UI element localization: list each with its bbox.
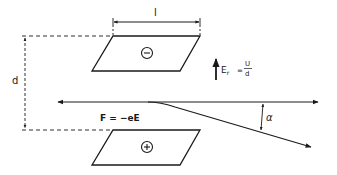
angle-arrow-icon bbox=[261, 104, 263, 130]
force-label: F = −eE bbox=[100, 113, 140, 123]
svg-text:Er: Er bbox=[221, 65, 230, 76]
bottom-plate bbox=[92, 130, 200, 165]
minus-sign-icon bbox=[142, 48, 153, 59]
length-dimension bbox=[113, 18, 200, 35]
deflected-beam bbox=[148, 102, 311, 147]
svg-text:U: U bbox=[245, 60, 250, 68]
deflection-diagram: l d Er = U d α F = −eE bbox=[0, 0, 337, 175]
distance-label: d bbox=[12, 75, 18, 86]
length-label: l bbox=[154, 7, 157, 18]
field-label: Er = U d bbox=[221, 60, 252, 78]
plus-sign-icon bbox=[142, 142, 153, 153]
top-plate bbox=[92, 36, 200, 71]
svg-text:d: d bbox=[245, 70, 249, 78]
angle-label: α bbox=[266, 112, 273, 123]
svg-text:=: = bbox=[237, 67, 243, 75]
